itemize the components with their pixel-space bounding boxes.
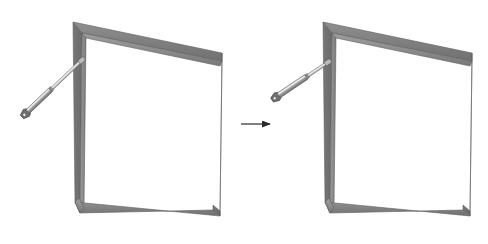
figure-canvas: Gas spring mounted to rectangular frame … xyxy=(0,0,488,244)
panel-left xyxy=(19,22,222,216)
strut-cylinder xyxy=(26,88,53,114)
rectangular-frame-left xyxy=(73,22,222,216)
panel-right xyxy=(269,22,472,216)
mechanical-illustration xyxy=(0,0,488,244)
strut-cylinder xyxy=(277,74,308,98)
rectangular-frame-right xyxy=(323,22,472,216)
